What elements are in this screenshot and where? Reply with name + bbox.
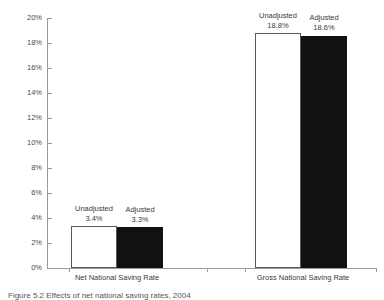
y-tick-label: 6% [31,189,42,197]
bar-label-net-adjusted: Adjusted 3.3% [112,205,168,224]
group-label-gross-national-saving-rate: Gross National Saving Rate [241,274,365,282]
series-name: Adjusted [112,205,168,214]
y-tick-label: 20% [27,14,42,22]
x-tick [69,268,70,272]
plot-area: 0% 2% 4% 6% 8% 10% 12% 14% [47,18,377,268]
y-tick-label: 18% [27,39,42,47]
y-tick-label: 0% [31,264,42,272]
x-tick [376,268,377,272]
series-value: 3.3% [112,215,168,224]
bar-net-unadjusted [71,226,117,269]
y-tick-label: 16% [27,64,42,72]
x-axis-line [47,268,377,269]
x-tick [207,268,208,272]
y-tick-label: 10% [27,139,42,147]
y-tick-label: 2% [31,239,42,247]
y-tick-label: 4% [31,214,42,222]
y-tick-label: 12% [27,114,42,122]
bar-label-gross-adjusted: Adjusted 18.6% [296,13,352,32]
y-tick-label: 8% [31,164,42,172]
figure-caption: Figure 5.2 Effects of net national savin… [8,292,191,300]
bar-gross-adjusted [301,36,347,269]
figure: 0% 2% 4% 6% 8% 10% 12% 14% [0,0,384,300]
group-label-net-national-saving-rate: Net National Saving Rate [57,274,177,282]
series-name: Adjusted [296,13,352,22]
bar-net-adjusted [117,227,163,268]
bar-gross-unadjusted [255,33,301,268]
y-tick-label: 14% [27,89,42,97]
series-value: 18.6% [296,23,352,32]
x-tick [245,268,246,272]
